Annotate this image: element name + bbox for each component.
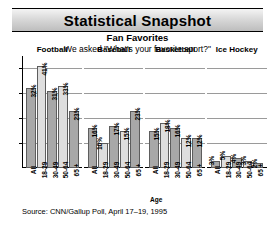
chart-panel-ice-hockey: Ice Hockey3%5%4%3%2%: [206, 56, 268, 168]
bar-value-label: 23%: [74, 107, 81, 120]
bar-value-label: 23%: [135, 107, 142, 120]
statistical-snapshot-figure: Statistical Snapshot Fan Favorites We as…: [0, 0, 275, 227]
bar: 32%: [26, 88, 36, 168]
x-tick-label: 65 +: [253, 169, 263, 201]
bar-slot: 17%: [109, 56, 119, 168]
chart-panel-baseball: Baseball16%10%17%15%23%: [83, 56, 145, 168]
bar: 15%: [149, 131, 159, 168]
bar-slot: 23%: [130, 56, 140, 168]
bar: 23%: [69, 111, 79, 168]
bar-group: 32%41%31%33%23%: [22, 56, 83, 168]
bar-group: 15%18%16%12%12%: [145, 56, 206, 168]
x-tick-label: 30-49: [170, 169, 180, 201]
x-tick-label: 30-49: [109, 169, 119, 201]
bar-value-label: 10%: [97, 137, 104, 150]
x-axis-title: Age: [150, 196, 162, 203]
bar-slot: 12%: [181, 56, 191, 168]
x-tick-label: 50-64: [120, 169, 130, 201]
panel-title: Football: [22, 45, 83, 54]
x-tick-label: 50-64: [181, 169, 191, 201]
chart-panel-basketball: Basketball15%18%16%12%12%: [144, 56, 206, 168]
bar-slot: 4%: [232, 56, 242, 168]
chart-panels: Football32%41%31%33%23%Baseball16%10%17%…: [22, 56, 267, 168]
bar-value-label: 3%: [209, 156, 216, 165]
x-tick-label: 18-29: [98, 169, 108, 201]
bar-slot: 15%: [120, 56, 130, 168]
bar-slot: 12%: [192, 56, 202, 168]
x-tick-label: 50-64: [59, 169, 69, 201]
bar-slot: 32%: [26, 56, 36, 168]
source-note: Source: CNN/Gallup Poll, April 17–19, 19…: [22, 207, 167, 216]
page-title: Statistical Snapshot: [12, 9, 263, 31]
bar: 41%: [37, 66, 47, 168]
bar-slot: 10%: [98, 56, 108, 168]
chart-panel-football: Football32%41%31%33%23%: [22, 56, 83, 168]
bar-slot: 16%: [170, 56, 180, 168]
bar: 23%: [130, 111, 140, 168]
bar-value-label: 5%: [220, 151, 227, 160]
x-tick-label: 50-64: [242, 169, 252, 201]
bar: 33%: [58, 86, 68, 168]
chart-plot-area: Football32%41%31%33%23%Baseball16%10%17%…: [22, 56, 267, 168]
x-tick-label: All: [26, 169, 36, 201]
x-tick-label: 65 +: [192, 169, 202, 201]
bar-slot: 18%: [160, 56, 170, 168]
bar-slot: 5%: [221, 56, 231, 168]
category-group: All18-2930-4950-6465 +: [206, 169, 267, 201]
panel-title: Basketball: [145, 45, 206, 54]
bar-value-label: 12%: [197, 135, 204, 148]
bar-slot: 23%: [69, 56, 79, 168]
x-tick-label-text: 65 +: [74, 164, 81, 177]
x-tick-label: 18-29: [37, 169, 47, 201]
bar-slot: 33%: [58, 56, 68, 168]
bar-slot: 2%: [253, 56, 263, 168]
panel-title: Ice Hockey: [207, 45, 268, 54]
bar-slot: 3%: [243, 56, 253, 168]
x-tick-label: 65 +: [131, 169, 141, 201]
category-group: All18-2930-4950-6465 +: [22, 169, 83, 201]
bar-slot: 31%: [47, 56, 57, 168]
chart-subtitle: Fan Favorites: [0, 32, 275, 43]
category-group: All18-2930-4950-6465 +: [83, 169, 144, 201]
title-banner: Statistical Snapshot: [12, 8, 263, 32]
x-tick-label: 30-49: [231, 169, 241, 201]
bar-group: 16%10%17%15%23%: [84, 56, 145, 168]
x-tick-label: All: [210, 169, 220, 201]
x-tick-label-text: 65 +: [258, 164, 265, 177]
x-tick-label: 30-49: [48, 169, 58, 201]
x-tick-label-text: 65 +: [197, 164, 204, 177]
x-tick-label-text: 65 +: [136, 164, 143, 177]
bar-slot: 16%: [88, 56, 98, 168]
bar-slot: 15%: [149, 56, 159, 168]
x-axis-category-labels: All18-2930-4950-6465 +All18-2930-4950-64…: [22, 169, 267, 201]
bar-slot: 41%: [37, 56, 47, 168]
x-tick-label: All: [87, 169, 97, 201]
panel-title: Baseball: [84, 45, 145, 54]
bar: 31%: [47, 91, 57, 168]
x-tick-label: 18-29: [221, 169, 231, 201]
bar-group: 3%5%4%3%2%: [207, 56, 268, 168]
x-tick-label: 65 +: [69, 169, 79, 201]
